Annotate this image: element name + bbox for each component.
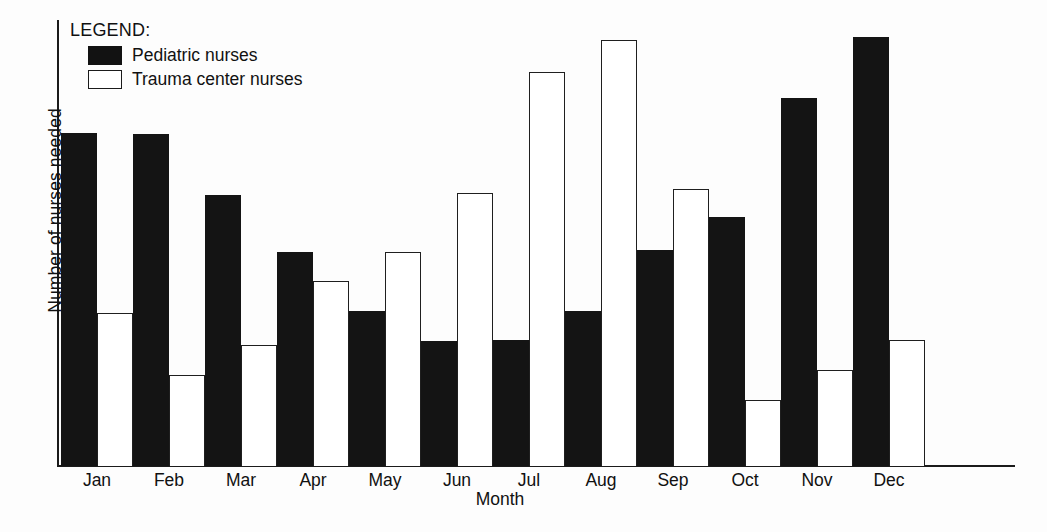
- x-tick-label-feb: Feb: [139, 470, 199, 491]
- x-axis-title: Month: [440, 489, 560, 510]
- bar-sep-trauma-center-nurses: [673, 189, 709, 466]
- bar-dec-trauma-center-nurses: [889, 340, 925, 466]
- bar-chart-figure: Number of nurses needed Month LEGEND: Pe…: [0, 0, 1047, 532]
- bar-apr-pediatric-nurses: [277, 252, 313, 466]
- x-tick-label-sep: Sep: [643, 470, 703, 491]
- bar-nov-trauma-center-nurses: [817, 370, 853, 466]
- bar-group-aug: [565, 20, 637, 466]
- bar-group-feb: [133, 20, 205, 466]
- bar-oct-pediatric-nurses: [709, 217, 745, 466]
- bar-aug-pediatric-nurses: [565, 311, 601, 466]
- x-tick-label-nov: Nov: [787, 470, 847, 491]
- plot-area: [59, 20, 1015, 466]
- bar-feb-pediatric-nurses: [133, 134, 169, 466]
- bar-jun-pediatric-nurses: [421, 341, 457, 466]
- bar-jan-pediatric-nurses: [61, 133, 97, 466]
- bar-aug-trauma-center-nurses: [601, 40, 637, 466]
- bar-sep-pediatric-nurses: [637, 250, 673, 466]
- x-tick-label-jun: Jun: [427, 470, 487, 491]
- bar-group-may: [349, 20, 421, 466]
- bar-mar-trauma-center-nurses: [241, 345, 277, 466]
- bar-dec-pediatric-nurses: [853, 37, 889, 466]
- bar-jul-trauma-center-nurses: [529, 72, 565, 466]
- bar-group-jan: [61, 20, 133, 466]
- bar-group-dec: [853, 20, 925, 466]
- x-tick-label-may: May: [355, 470, 415, 491]
- x-tick-label-jan: Jan: [67, 470, 127, 491]
- bar-group-sep: [637, 20, 709, 466]
- x-tick-label-mar: Mar: [211, 470, 271, 491]
- x-tick-label-apr: Apr: [283, 470, 343, 491]
- x-tick-label-aug: Aug: [571, 470, 631, 491]
- bar-may-trauma-center-nurses: [385, 252, 421, 466]
- bar-mar-pediatric-nurses: [205, 195, 241, 466]
- x-tick-label-dec: Dec: [859, 470, 919, 491]
- bar-apr-trauma-center-nurses: [313, 281, 349, 466]
- bar-jan-trauma-center-nurses: [97, 313, 133, 466]
- bar-group-apr: [277, 20, 349, 466]
- bar-group-mar: [205, 20, 277, 466]
- bar-feb-trauma-center-nurses: [169, 375, 205, 466]
- bar-jun-trauma-center-nurses: [457, 193, 493, 466]
- bar-nov-pediatric-nurses: [781, 98, 817, 466]
- bar-group-jul: [493, 20, 565, 466]
- x-tick-label-oct: Oct: [715, 470, 775, 491]
- bar-may-pediatric-nurses: [349, 311, 385, 466]
- bar-group-nov: [781, 20, 853, 466]
- bar-oct-trauma-center-nurses: [745, 400, 781, 466]
- x-tick-label-jul: Jul: [499, 470, 559, 491]
- bar-group-jun: [421, 20, 493, 466]
- bar-jul-pediatric-nurses: [493, 340, 529, 466]
- bar-group-oct: [709, 20, 781, 466]
